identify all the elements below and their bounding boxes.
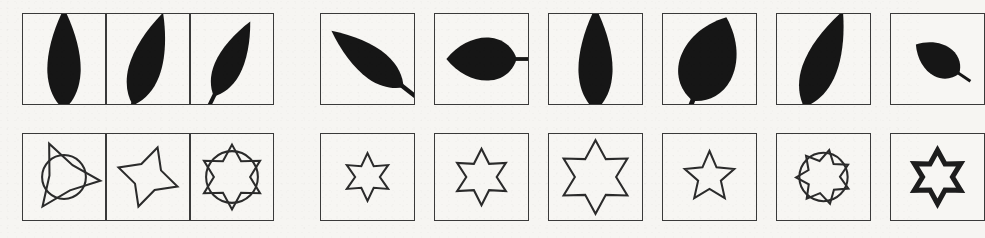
leaf-upright-narrow[interactable] xyxy=(22,13,106,105)
leaf-small-tilted[interactable] xyxy=(890,13,985,105)
leaf-diagonal-up[interactable] xyxy=(320,13,415,105)
star-3-point-with-circle[interactable] xyxy=(22,133,106,221)
leaf-tilted-small[interactable] xyxy=(190,13,274,105)
leaf-upright-tall[interactable] xyxy=(548,13,643,105)
star-6-point-bold[interactable] xyxy=(890,133,985,221)
leaf-tilted-narrow[interactable] xyxy=(106,13,190,105)
star-4-point[interactable] xyxy=(106,133,190,221)
star-6-point-small[interactable] xyxy=(320,133,415,221)
star-6-point-medium[interactable] xyxy=(434,133,529,221)
leaf-diagonal-down[interactable] xyxy=(776,13,871,105)
leaf-horizontal[interactable] xyxy=(434,13,529,105)
leaf-broad-ovate[interactable] xyxy=(662,13,757,105)
star-7-point-with-circle[interactable] xyxy=(776,133,871,221)
star-6-point-large[interactable] xyxy=(548,133,643,221)
star-5-point[interactable] xyxy=(662,133,757,221)
star-6-point-with-circle[interactable] xyxy=(190,133,274,221)
